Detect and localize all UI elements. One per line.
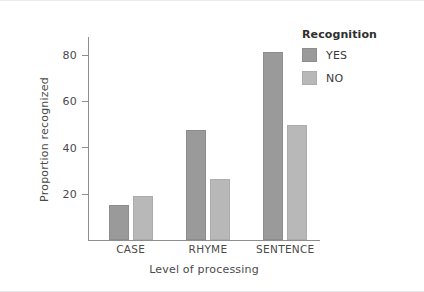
chart-figure: Proportion recognized 20406080 CASERHYME… bbox=[0, 0, 424, 292]
legend-title: Recognition bbox=[302, 28, 412, 41]
legend-swatch-no bbox=[302, 71, 317, 85]
y-axis-tick-label: 40 bbox=[63, 141, 77, 154]
y-axis-tick-label: 20 bbox=[63, 188, 77, 201]
legend-entries: YESNO bbox=[302, 48, 412, 85]
y-axis-tick: 60 bbox=[82, 101, 88, 102]
y-axis-tick-label: 80 bbox=[63, 49, 77, 62]
bar-sentence-no bbox=[287, 125, 307, 240]
y-axis-title: Proportion recognized bbox=[37, 37, 51, 241]
bar-case-yes bbox=[109, 205, 129, 240]
bar-case-no bbox=[133, 196, 153, 240]
y-axis-tick: 40 bbox=[82, 147, 88, 148]
x-axis-title: Level of processing bbox=[88, 263, 320, 276]
x-axis-category-label: CASE bbox=[116, 243, 145, 255]
bar-sentence-yes bbox=[263, 52, 283, 240]
plot-area: 20406080 CASERHYMESENTENCE bbox=[88, 37, 320, 241]
x-axis-category-label: RHYME bbox=[189, 243, 228, 255]
y-axis-tick: 20 bbox=[82, 194, 88, 195]
legend-label-no: NO bbox=[326, 72, 343, 85]
legend-item-no[interactable]: NO bbox=[302, 71, 412, 85]
legend-label-yes: YES bbox=[326, 49, 347, 62]
bar-rhyme-yes bbox=[186, 130, 206, 240]
y-axis-tick: 80 bbox=[82, 55, 88, 56]
x-axis-category-label: SENTENCE bbox=[256, 243, 314, 255]
y-axis-title-text: Proportion recognized bbox=[38, 77, 51, 202]
y-axis-line bbox=[88, 37, 89, 241]
legend-item-yes[interactable]: YES bbox=[302, 48, 412, 62]
x-axis-line bbox=[88, 240, 320, 241]
y-axis-tick-label: 60 bbox=[63, 95, 77, 108]
bar-rhyme-no bbox=[210, 179, 230, 240]
legend-swatch-yes bbox=[302, 48, 317, 62]
legend: Recognition YESNO bbox=[302, 28, 412, 94]
